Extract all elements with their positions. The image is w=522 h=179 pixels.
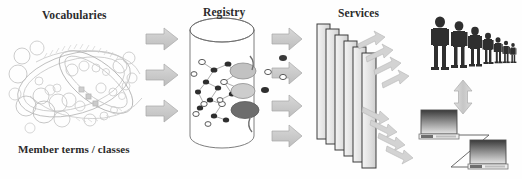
label-services: Services bbox=[338, 7, 379, 19]
diagram-canvas: Vocabularies Registry Services Member te… bbox=[0, 0, 522, 179]
label-registry: Registry bbox=[203, 6, 245, 18]
label-vocabularies: Vocabularies bbox=[42, 9, 107, 21]
laptop bbox=[419, 110, 459, 139]
label-member-terms: Member terms / classes bbox=[18, 143, 130, 155]
laptop bbox=[468, 140, 508, 169]
